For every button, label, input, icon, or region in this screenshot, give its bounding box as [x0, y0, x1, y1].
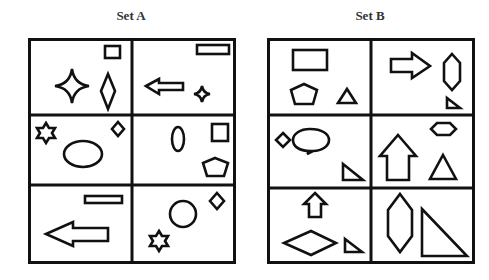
- set-a-cell-1: [55, 46, 120, 109]
- up-arrow-small-icon: [304, 193, 326, 217]
- set-b-cell-4: [380, 123, 456, 180]
- right-triangle-large-icon: [422, 209, 467, 256]
- triangle-icon: [430, 155, 456, 179]
- set-a-cell-6: [150, 193, 224, 251]
- triangle-icon: [338, 89, 356, 103]
- square-icon: [212, 124, 228, 141]
- set-a-cell-3: [37, 122, 124, 167]
- set-b-cell-3: [276, 129, 363, 180]
- hexagon-tall-large-icon: [388, 194, 412, 252]
- rectangle-wide-icon: [197, 45, 229, 54]
- four-point-star-small-icon: [194, 86, 210, 102]
- right-triangle-small-icon: [447, 98, 460, 108]
- set-a-cell-4: [172, 124, 228, 176]
- set-a-cell-2: [146, 45, 229, 102]
- set-a-cell-5: [46, 196, 122, 246]
- up-arrow-icon: [380, 135, 416, 180]
- set-b-title: Set B: [320, 8, 420, 24]
- set-b-cell-5: [284, 193, 362, 255]
- diamond-icon: [276, 133, 290, 147]
- speech-bubble-icon: [293, 129, 329, 154]
- six-point-star-icon: [150, 231, 168, 251]
- rectangle-icon: [293, 50, 327, 70]
- pentagon-icon: [203, 158, 228, 176]
- set-a-title: Set A: [81, 8, 181, 24]
- set-b-cell-1: [291, 50, 356, 104]
- right-arrow-icon: [391, 53, 430, 78]
- rhombus-wide-icon: [284, 231, 336, 255]
- left-arrow-large-icon: [46, 222, 108, 246]
- diamond-icon: [101, 74, 115, 109]
- rectangle-thin-icon: [85, 196, 122, 203]
- pentagon-icon: [291, 84, 317, 104]
- six-point-star-icon: [37, 123, 55, 143]
- right-triangle-small-icon: [345, 239, 362, 252]
- right-triangle-icon: [343, 164, 363, 180]
- left-arrow-icon: [146, 79, 183, 94]
- set-a-grid: [28, 38, 236, 264]
- four-point-star-icon: [55, 69, 89, 103]
- circle-icon: [170, 201, 196, 227]
- set-b-cell-6: [388, 194, 467, 256]
- rectangle-small-icon: [105, 46, 120, 58]
- hexagon-tall-icon: [444, 54, 460, 90]
- hexagon-wide-icon: [431, 123, 456, 135]
- diamond-icon: [210, 193, 224, 209]
- set-b-grid: [267, 38, 475, 264]
- ellipse-icon: [64, 141, 102, 167]
- diamond-icon: [112, 122, 124, 136]
- ellipse-tall-icon: [172, 127, 184, 151]
- set-b-cell-2: [391, 53, 460, 108]
